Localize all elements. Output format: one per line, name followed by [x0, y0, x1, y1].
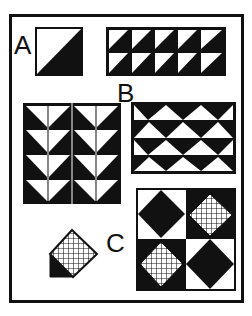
block-a-half-square-triangle — [35, 27, 83, 76]
block-b2-flying-geese — [23, 103, 121, 204]
label-c: C — [106, 230, 125, 256]
block-b3-triangle-rows — [131, 102, 236, 174]
label-a: A — [14, 32, 31, 58]
block-c1-tilted-square — [48, 228, 100, 279]
block-c2-four-patch — [136, 188, 236, 291]
block-b1-triangle-strip — [106, 27, 226, 76]
